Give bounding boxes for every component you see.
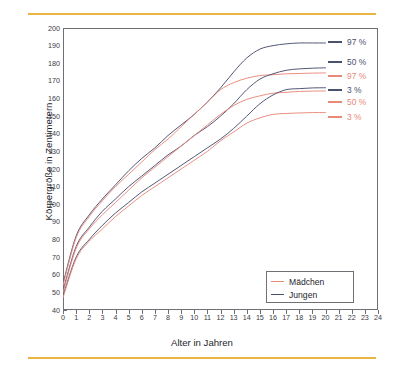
percentile-annotation: 50 % [328, 97, 366, 107]
percentile-annotations: 97 %50 %97 %3 %50 %3 % [328, 0, 404, 367]
y-axis-tick-label: 70 [34, 254, 60, 261]
y-axis-tick-label: 120 [34, 166, 60, 173]
legend-item-jungen: Jungen [271, 288, 353, 301]
growth-chart-figure: Körpergröße in Zentimetern 4050607080901… [0, 0, 404, 367]
curve-mädchen-50pct [63, 91, 326, 292]
y-axis-tick-label: 140 [34, 130, 60, 137]
percentile-leader-line [328, 61, 342, 62]
percentile-leader-line [328, 101, 342, 102]
y-axis-tick-label: 90 [34, 218, 60, 225]
y-axis-tick-label: 130 [34, 148, 60, 155]
y-axis-tick-labels: 4050607080901001101201301401501601701801… [34, 0, 60, 367]
y-axis-tick-label: 50 [34, 289, 60, 296]
bottom-divider-rule [28, 357, 376, 359]
percentile-leader-line [328, 116, 342, 117]
percentile-leader-line [328, 41, 342, 42]
y-axis-tick-label: 180 [34, 60, 60, 67]
percentile-annotation: 97 % [328, 37, 366, 47]
curve-jungen-50pct [63, 68, 326, 291]
curve-mädchen-3pct [63, 113, 326, 298]
percentile-annotation: 3 % [328, 112, 361, 122]
percentile-label: 3 % [347, 112, 361, 122]
legend-label: Mädchen [289, 277, 324, 287]
percentile-annotation: 50 % [328, 57, 366, 67]
legend-label: Jungen [289, 290, 317, 300]
y-axis-tick-label: 150 [34, 113, 60, 120]
y-axis-tick-label: 110 [34, 183, 60, 190]
chart-legend: MädchenJungen [266, 271, 354, 303]
y-axis-tick-label: 170 [34, 77, 60, 84]
percentile-label: 3 % [347, 85, 361, 95]
percentile-leader-line [328, 89, 342, 90]
percentile-label: 50 % [347, 57, 366, 67]
legend-color-swatch [271, 281, 284, 283]
percentile-annotation: 97 % [328, 71, 366, 81]
y-axis-tick-label: 100 [34, 201, 60, 208]
percentile-annotation: 3 % [328, 85, 361, 95]
curve-mädchen-97pct [63, 73, 326, 285]
y-axis-tick-label: 80 [34, 236, 60, 243]
y-axis-tick-label: 200 [34, 25, 60, 32]
legend-color-swatch [271, 294, 284, 296]
y-axis-tick-label: 160 [34, 95, 60, 102]
legend-item-mädchen: Mädchen [271, 275, 353, 288]
y-axis-tick-label: 190 [34, 42, 60, 49]
y-axis-tick-label: 60 [34, 271, 60, 278]
percentile-label: 50 % [347, 97, 366, 107]
percentile-label: 97 % [347, 71, 366, 81]
curve-jungen-97pct [63, 43, 326, 284]
curve-jungen-3pct [63, 88, 326, 296]
percentile-label: 97 % [347, 37, 366, 47]
top-divider-rule [28, 13, 376, 15]
percentile-leader-line [328, 75, 342, 76]
